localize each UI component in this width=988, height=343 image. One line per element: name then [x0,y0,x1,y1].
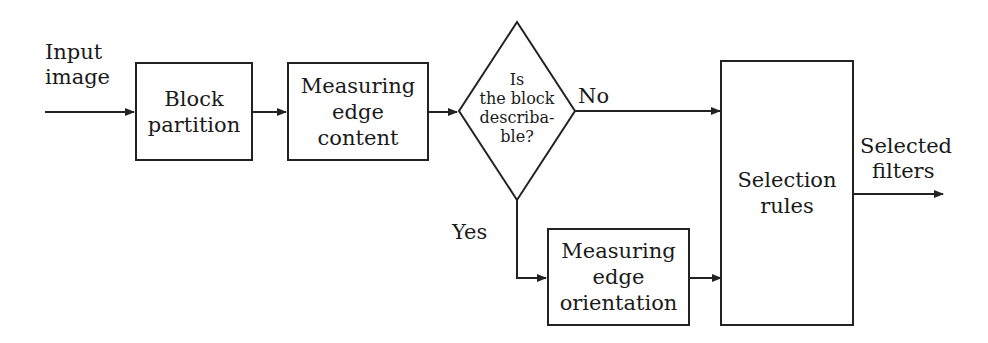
no-label: No [578,84,609,109]
edge-content-box: Measuring edge content [287,62,429,161]
yes-arrow [517,200,546,278]
block-partition-box: Block partition [135,62,253,161]
input-label: Input image [45,40,110,90]
decision-text: Is the block describa- ble? [467,70,567,146]
selection-rules-box: Selection rules [720,60,854,326]
yes-label: Yes [452,220,487,245]
edge-orientation-box: Measuring edge orientation [547,228,690,326]
output-label: Selected filters [860,134,952,184]
